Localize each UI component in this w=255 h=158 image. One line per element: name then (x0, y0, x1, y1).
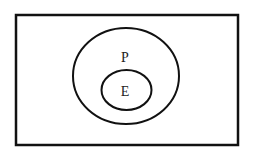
universe-rectangle (16, 15, 238, 145)
set-e-label: E (121, 84, 130, 99)
set-p-label: P (121, 50, 129, 65)
euler-diagram: P E (0, 0, 255, 158)
